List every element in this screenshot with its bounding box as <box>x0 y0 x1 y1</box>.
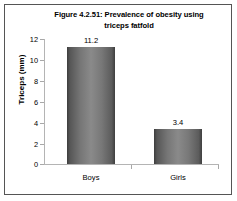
x-axis-category-label: Boys <box>56 173 126 182</box>
y-axis-tick-label: 0 <box>12 160 38 169</box>
x-axis-tick <box>218 165 219 169</box>
y-axis-tick <box>40 164 44 165</box>
bar-value-label: 11.2 <box>66 36 116 45</box>
chart-title-line-1: Figure 4.2.51: Prevalence of obesity usi… <box>31 10 227 21</box>
chart-frame: Figure 4.2.51: Prevalence of obesity usi… <box>4 4 232 195</box>
chart-title: Figure 4.2.51: Prevalence of obesity usi… <box>31 10 227 31</box>
y-axis-tick-label: 4 <box>12 119 38 128</box>
chart-title-line-2: triceps fatfold <box>31 21 227 32</box>
plot-area <box>44 39 218 164</box>
x-axis-tick <box>131 165 132 169</box>
y-axis-tick-label: 10 <box>12 56 38 65</box>
y-axis-tick-label: 6 <box>12 98 38 107</box>
x-axis-category-label: Girls <box>143 173 213 182</box>
bar-value-label: 3.4 <box>153 118 203 127</box>
y-axis-tick-label: 8 <box>12 77 38 86</box>
bar-boys[interactable] <box>67 47 115 164</box>
y-axis-tick-label: 12 <box>12 35 38 44</box>
y-axis-tick-label: 2 <box>12 140 38 149</box>
bar-girls[interactable] <box>154 129 202 164</box>
